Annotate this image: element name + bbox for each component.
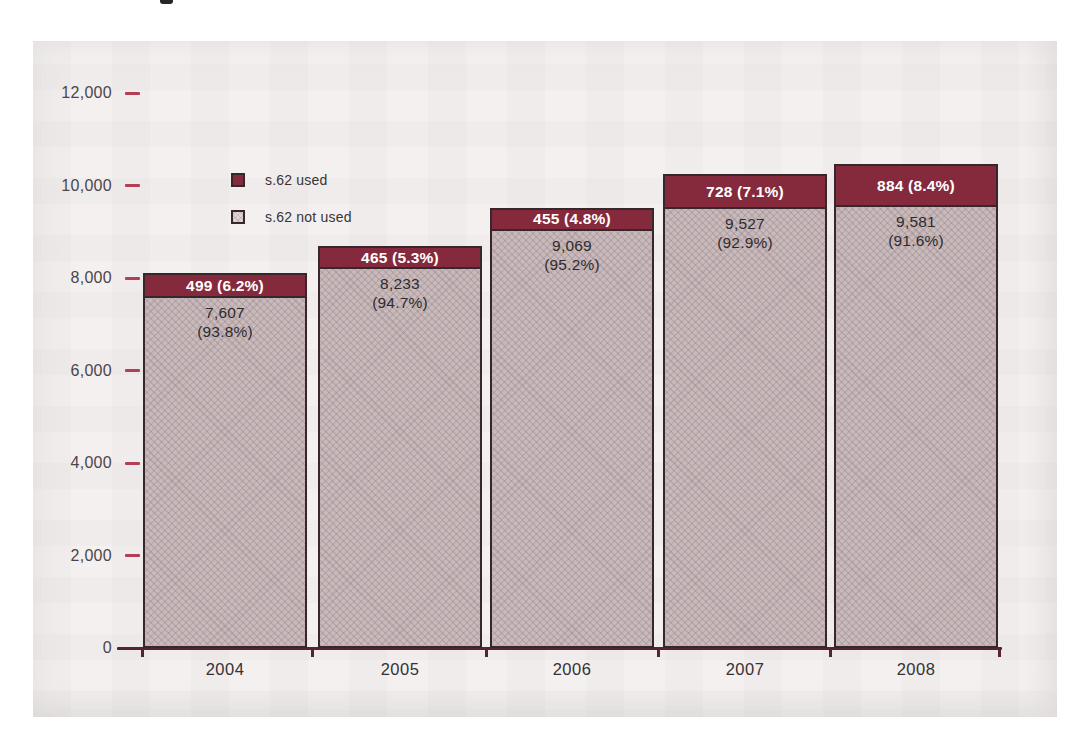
bar-label-not-used: 9,069(95.2%) (490, 236, 654, 274)
x-tick-label: 2008 (834, 660, 998, 679)
bar-label-used: 455 (4.8%) (533, 211, 611, 227)
y-tick-label: 6,000 (42, 362, 112, 380)
legend-label-not-used: s.62 not used (265, 209, 352, 225)
bar-label-used: 465 (5.3%) (361, 250, 439, 266)
x-tick-label: 2006 (490, 660, 654, 679)
bar-group: 465 (5.3%)8,233(94.7%) (318, 246, 482, 648)
bar-group: 455 (4.8%)9,069(95.2%) (490, 208, 654, 648)
bar-value-text: 7,607 (143, 303, 307, 322)
legend-item-used: s.62 used (231, 172, 328, 188)
y-tick-mark-icon (125, 92, 140, 95)
chart-panel: s.62 used s.62 not used 12,00010,0008,00… (33, 41, 1057, 717)
y-tick-label: 0 (42, 639, 112, 657)
bar-segment-not-used (143, 296, 307, 648)
y-tick-label: 8,000 (42, 269, 112, 287)
bar-percent-text: (94.7%) (318, 293, 482, 312)
bar-label-used: 499 (6.2%) (186, 278, 264, 294)
x-tick-label: 2005 (318, 660, 482, 679)
y-tick-mark-icon (125, 369, 140, 372)
bar-percent-text: (93.8%) (143, 322, 307, 341)
axis-down-tick-icon (485, 647, 488, 657)
bar-percent-text: (92.9%) (663, 233, 827, 252)
bar-value-text: 9,527 (663, 214, 827, 233)
y-tick-mark-icon (125, 462, 140, 465)
bar-group: 499 (6.2%)7,607(93.8%) (143, 273, 307, 648)
y-tick-mark-icon (125, 184, 140, 187)
bar-percent-text: (95.2%) (490, 255, 654, 274)
axis-down-tick-icon (141, 647, 144, 657)
bar-label-not-used: 9,527(92.9%) (663, 214, 827, 252)
bar-label-used: 728 (7.1%) (706, 184, 784, 200)
y-tick-label: 2,000 (42, 547, 112, 565)
y-tick-label: 12,000 (42, 84, 112, 102)
legend-swatch-used-icon (231, 173, 245, 187)
bar-value-text: 9,581 (834, 212, 998, 231)
y-tick-label: 4,000 (42, 454, 112, 472)
axis-down-tick-icon (657, 647, 660, 657)
x-tick-label: 2004 (143, 660, 307, 679)
bar-group: 884 (8.4%)9,581(91.6%) (834, 164, 998, 648)
legend-swatch-not-used-icon (231, 210, 245, 224)
bar-value-text: 8,233 (318, 274, 482, 293)
bar-segment-not-used (318, 267, 482, 648)
bar-group: 728 (7.1%)9,527(92.9%) (663, 174, 827, 648)
y-tick-mark-icon (125, 554, 140, 557)
bar-segment-used: 884 (8.4%) (834, 164, 998, 207)
bar-percent-text: (91.6%) (834, 231, 998, 250)
bar-segment-used: 455 (4.8%) (490, 208, 654, 231)
axis-down-tick-icon (829, 647, 832, 657)
y-tick-mark-icon (125, 277, 140, 280)
x-tick-label: 2007 (663, 660, 827, 679)
axis-down-tick-icon (311, 647, 314, 657)
bar-label-not-used: 7,607(93.8%) (143, 303, 307, 341)
y-tick-label: 10,000 (42, 177, 112, 195)
legend-label-used: s.62 used (265, 172, 328, 188)
bar-value-text: 9,069 (490, 236, 654, 255)
bar-segment-used: 728 (7.1%) (663, 174, 827, 210)
bar-segment-used: 499 (6.2%) (143, 273, 307, 298)
bar-label-used: 884 (8.4%) (877, 178, 955, 194)
scan-artifact-mark (160, 0, 173, 4)
bar-label-not-used: 8,233(94.7%) (318, 274, 482, 312)
scanned-chart-page: s.62 used s.62 not used 12,00010,0008,00… (0, 0, 1089, 747)
axis-down-tick-icon (998, 647, 1001, 657)
bar-segment-not-used (490, 229, 654, 648)
bar-segment-not-used (834, 205, 998, 648)
legend-item-not-used: s.62 not used (231, 209, 352, 225)
bar-segment-used: 465 (5.3%) (318, 246, 482, 270)
bar-label-not-used: 9,581(91.6%) (834, 212, 998, 250)
bar-segment-not-used (663, 207, 827, 648)
